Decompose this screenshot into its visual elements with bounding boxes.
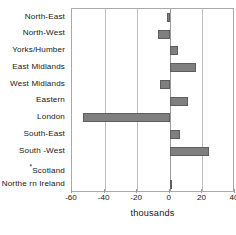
bar: [170, 130, 180, 139]
y-axis-label: Yorks/Humber: [12, 42, 65, 57]
bar: [167, 13, 169, 22]
bar: [170, 180, 172, 189]
y-axis-label: London: [37, 109, 65, 124]
gridline: [105, 9, 106, 191]
y-axis-label: Eastern: [36, 92, 65, 107]
plot-area: [71, 8, 234, 192]
x-axis-tick-label: -60: [65, 193, 77, 202]
x-axis-tick-label: 0: [167, 193, 172, 202]
bar: [160, 80, 170, 89]
bar: [170, 97, 188, 106]
bar: [170, 63, 196, 72]
x-axis-tick-mark: [201, 189, 202, 193]
gridline: [202, 9, 203, 191]
x-axis-tick-label: -40: [98, 193, 110, 202]
bar: [170, 147, 209, 156]
y-axis-category-labels: North-EastNorth-WestYorks/HumberEast Mid…: [0, 8, 68, 192]
x-axis-tick-mark: [169, 189, 170, 193]
x-axis-tick-mark: [136, 189, 137, 193]
y-axis-label: West Midlands: [10, 76, 65, 91]
x-axis-tick-label: 20: [197, 193, 206, 202]
bar: [170, 46, 178, 55]
bar-chart: North-EastNorth-WestYorks/HumberEast Mid…: [0, 0, 236, 235]
y-axis-label: North-East: [25, 9, 65, 24]
y-axis-label: South-East: [23, 126, 65, 141]
y-axis-label: East Midlands: [12, 59, 65, 74]
y-axis-label: South -West: [19, 143, 65, 158]
y-axis-label: North-West: [23, 25, 65, 40]
y-axis-label: Northe rn Ireland: [2, 176, 65, 191]
gridline: [137, 9, 138, 191]
x-axis-tick-label: -20: [130, 193, 142, 202]
x-axis-tick-mark: [71, 189, 72, 193]
bar: [83, 113, 169, 122]
x-axis-tick-labels: -60-40-2002040: [71, 193, 234, 207]
x-axis-tick-mark: [234, 189, 235, 193]
y-axis-label: *Scotland: [30, 159, 65, 174]
footnote-asterisk: *: [30, 163, 33, 170]
bar: [158, 30, 169, 39]
x-axis-title: thousands: [71, 208, 234, 218]
x-axis-tick-label: 40: [229, 193, 236, 202]
x-axis-tick-mark: [104, 189, 105, 193]
